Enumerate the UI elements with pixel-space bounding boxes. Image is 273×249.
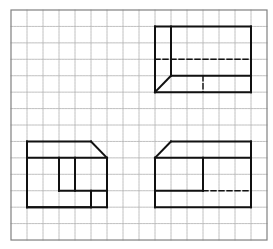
grid bbox=[11, 10, 267, 240]
visible-edge bbox=[155, 141, 171, 157]
visible-edge bbox=[155, 76, 171, 92]
projection-diagram bbox=[0, 0, 273, 249]
visible-edge bbox=[91, 141, 107, 157]
